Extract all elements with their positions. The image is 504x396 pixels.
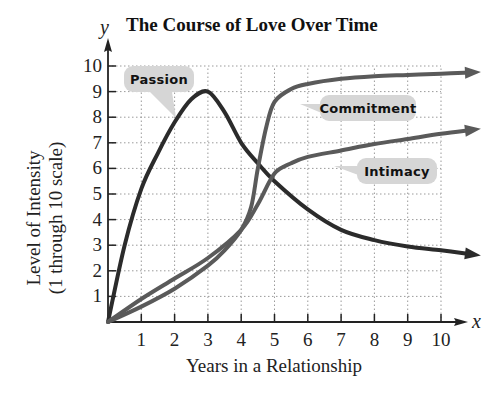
callout-label-intimacy: Intimacy: [364, 164, 430, 179]
y-tick-label: 5: [93, 183, 103, 204]
x-tick-label: 7: [336, 329, 346, 350]
x-tick-label: 3: [203, 329, 213, 350]
x-tick-label: 6: [303, 329, 313, 350]
y-axis-label: Level of Intensity: [23, 150, 44, 286]
x-tick-label: 10: [432, 329, 451, 350]
x-axis-letter: x: [471, 310, 481, 332]
y-axis-label-sub: (1 through 10 scale): [45, 142, 67, 294]
y-axis-arrow-icon: [104, 38, 112, 52]
y-tick-label: 8: [93, 106, 103, 127]
y-axis-label-group: Level of Intensity (1 through 10 scale): [23, 142, 67, 294]
y-tick-label: 1: [93, 285, 103, 306]
x-tick-label: 5: [270, 329, 280, 350]
x-axis-arrow-icon: [454, 318, 468, 326]
x-tick-label: 8: [370, 329, 380, 350]
love-over-time-chart: The Course of Love Over Time y x Level o…: [0, 0, 504, 396]
y-tick-label: 6: [93, 157, 103, 178]
callout-label-commitment: Commitment: [319, 101, 416, 116]
arrowhead-icon: [464, 247, 481, 259]
y-tick-label: 2: [93, 260, 103, 281]
y-axis-letter: y: [98, 16, 109, 39]
x-tick-label: 9: [403, 329, 413, 350]
y-tick-label: 10: [83, 55, 102, 76]
chart-title: The Course of Love Over Time: [126, 14, 378, 35]
y-tick-label: 9: [93, 81, 103, 102]
x-axis-label: Years in a Relationship: [186, 355, 362, 376]
arrowhead-icon: [465, 67, 481, 79]
x-tick-label: 2: [170, 329, 180, 350]
y-tick-label: 4: [93, 209, 103, 230]
y-tick-label: 7: [93, 132, 103, 153]
x-tick-label: 4: [236, 329, 246, 350]
arrowhead-icon: [464, 125, 481, 137]
x-tick-label: 1: [137, 329, 147, 350]
callout-label-passion: Passion: [130, 72, 188, 87]
y-tick-label: 3: [93, 234, 103, 255]
